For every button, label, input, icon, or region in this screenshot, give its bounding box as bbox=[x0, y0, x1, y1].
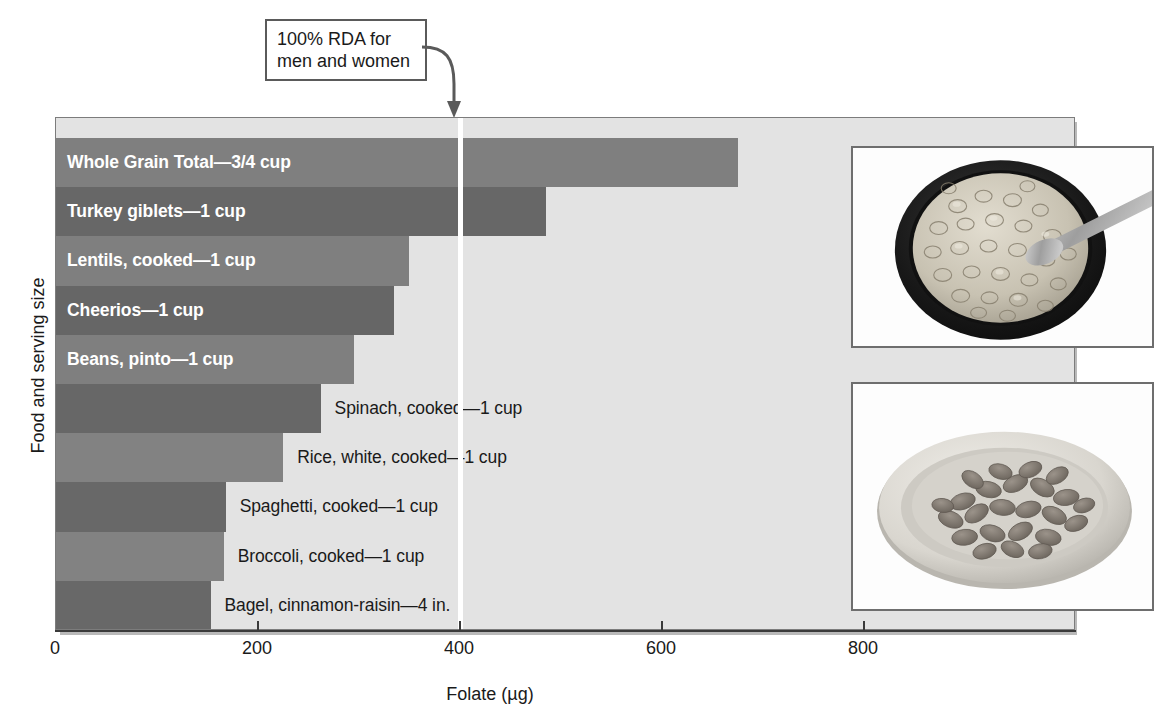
y-axis-label: Food and serving size bbox=[28, 236, 49, 496]
bar bbox=[56, 384, 321, 433]
x-tick-label: 800 bbox=[833, 638, 893, 659]
rda-callout-text: 100% RDA for men and women bbox=[277, 28, 410, 73]
bar-label-outside: Spinach, cooked—1 cup bbox=[335, 384, 523, 433]
bar bbox=[56, 482, 226, 531]
bar bbox=[56, 433, 283, 482]
rda-reference-line bbox=[458, 118, 463, 630]
x-axis-label: Folate (µg) bbox=[330, 684, 650, 705]
x-tick-label: 400 bbox=[429, 638, 489, 659]
bar-label-inside: Whole Grain Total—3/4 cup bbox=[67, 138, 291, 187]
x-tick bbox=[459, 621, 461, 630]
bar bbox=[56, 532, 224, 581]
plot-top-padding bbox=[56, 118, 1074, 138]
x-tick bbox=[257, 621, 259, 630]
folate-bar-chart-figure: 100% RDA for men and women Food and serv… bbox=[0, 0, 1176, 727]
x-tick-label: 200 bbox=[227, 638, 287, 659]
x-axis-line bbox=[55, 630, 1076, 632]
pinto-beans-photo bbox=[851, 382, 1154, 611]
bar bbox=[56, 581, 211, 630]
figure-caption bbox=[0, 707, 1176, 727]
x-tick bbox=[863, 621, 865, 630]
bar-label-outside: Spaghetti, cooked—1 cup bbox=[240, 482, 438, 531]
x-tick bbox=[661, 621, 663, 630]
bar-label-inside: Cheerios—1 cup bbox=[67, 286, 204, 335]
rda-callout-box: 100% RDA for men and women bbox=[265, 19, 427, 81]
x-tick-label: 0 bbox=[25, 638, 85, 659]
rda-callout-arrow-icon bbox=[420, 44, 480, 122]
bar-label-inside: Turkey giblets—1 cup bbox=[67, 187, 246, 236]
bar-label-outside: Rice, white, cooked—1 cup bbox=[297, 433, 507, 482]
bar-label-inside: Beans, pinto—1 cup bbox=[67, 335, 233, 384]
bar-label-outside: Broccoli, cooked—1 cup bbox=[238, 532, 425, 581]
x-tick-label: 600 bbox=[631, 638, 691, 659]
cereal-bowl-photo bbox=[851, 146, 1154, 348]
bar-label-inside: Lentils, cooked—1 cup bbox=[67, 236, 256, 285]
